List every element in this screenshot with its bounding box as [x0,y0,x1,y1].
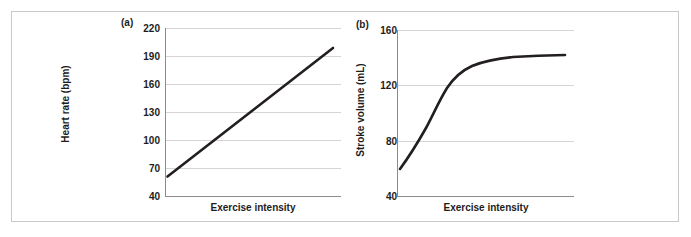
panel-a-x-axis-title: Exercise intensity [153,202,353,213]
panel-b: (b) Stroke volume (mL) 160 120 80 40 Exe… [345,0,691,237]
panel-b-x-axis-title: Exercise intensity [386,202,586,213]
panel-b-data-line [400,55,565,169]
figure-root: (a) Heart rate (bpm) 220 190 160 130 100… [0,0,691,237]
panel-a: (a) Heart rate (bpm) 220 190 160 130 100… [0,0,350,237]
